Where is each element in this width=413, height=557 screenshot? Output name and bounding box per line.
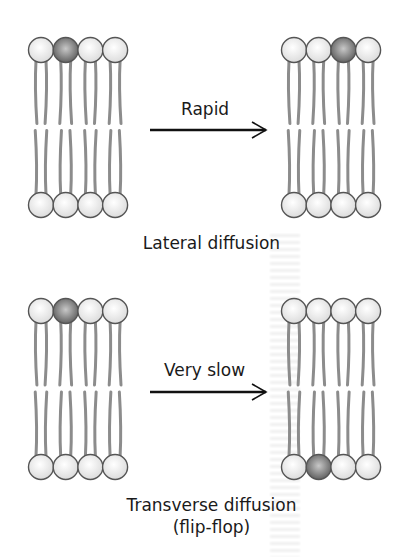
lipid-tail [323, 322, 324, 386]
lipid-tail [95, 392, 96, 457]
lipid-tail [70, 61, 71, 124]
lipid-tail [363, 131, 364, 195]
highlighted-lipid-head [331, 38, 356, 63]
lipid-head [29, 455, 54, 480]
lipid-tail [313, 131, 314, 195]
caption-transverse-diffusion: Transverse diffusion [0, 494, 413, 516]
lipid-tail [338, 392, 339, 457]
lipid-head [282, 455, 307, 480]
lipid-head [306, 299, 331, 324]
lipid-head [356, 299, 381, 324]
lipid-tail [288, 322, 289, 386]
lipid-tail [298, 131, 299, 195]
lipid-tail [373, 322, 374, 386]
lipid-tail [323, 392, 324, 457]
lipid-tail [372, 392, 373, 457]
caption-flip-flop: (flip-flop) [0, 516, 413, 538]
lipid-head [356, 193, 381, 218]
lipid-tail [362, 61, 363, 124]
lipid-head [53, 193, 78, 218]
lipid-head [282, 38, 307, 63]
lipid-tail [35, 392, 36, 457]
lipid-tail [288, 61, 289, 124]
lipid-head [29, 299, 54, 324]
lipid-tail [119, 392, 120, 457]
lipid-tail [298, 322, 299, 386]
arrow-label-very-slow: Very slow [164, 360, 245, 380]
lipid-head [331, 455, 356, 480]
lipid-tail [85, 61, 86, 124]
lipid-head [331, 193, 356, 218]
lipid-head [103, 299, 128, 324]
lipid-tail [60, 392, 61, 457]
lipid-tail [110, 131, 111, 195]
lipid-tail [348, 61, 349, 124]
lipid-head [356, 455, 381, 480]
diagram-graphics [0, 0, 413, 557]
lipid-tail [70, 392, 71, 457]
lipid-tail [109, 61, 110, 124]
lipid-tail [120, 61, 121, 124]
lipid-tail [288, 392, 289, 457]
caption-lateral-diffusion: Lateral diffusion [0, 232, 413, 254]
lipid-head [306, 38, 331, 63]
lipid-tail [35, 131, 36, 195]
lipid-tail [298, 61, 299, 124]
bilayer-lateral-before [29, 38, 128, 218]
lipid-head [78, 38, 103, 63]
lipid-tail [60, 322, 61, 386]
lipid-head [331, 299, 356, 324]
lipid-tail [85, 131, 86, 195]
lipid-tail [288, 131, 289, 195]
lipid-tail [372, 131, 373, 195]
highlighted-lipid-head [53, 38, 78, 63]
arrow-very-slow-icon [150, 384, 266, 400]
lipid-tail [338, 131, 339, 195]
lipid-tail [120, 322, 121, 386]
lipid-tail [109, 322, 110, 386]
lipid-head [78, 299, 103, 324]
lipid-tail [95, 131, 96, 195]
lipid-tail [363, 392, 364, 457]
lipid-tail [313, 322, 314, 386]
lipid-tail [313, 392, 314, 457]
arrow-label-rapid: Rapid [181, 99, 229, 119]
lipid-tail [85, 322, 86, 386]
lipid-tail [85, 392, 86, 457]
lipid-tail [35, 61, 36, 124]
lipid-tail [110, 392, 111, 457]
bilayer-lateral-after [282, 38, 381, 218]
lipid-tail [323, 61, 324, 124]
bilayer-transverse-before [29, 299, 128, 480]
lipid-tail [45, 392, 46, 457]
lipid-tail [45, 131, 46, 195]
lipid-head [282, 299, 307, 324]
membrane-diffusion-diagram: Rapid Lateral diffusion Very slow Transv… [0, 0, 413, 557]
highlighted-lipid-head [53, 299, 78, 324]
lipid-head [29, 193, 54, 218]
lipid-tail [298, 392, 299, 457]
lipid-tail [35, 322, 36, 386]
arrow-rapid-icon [150, 122, 266, 138]
lipid-tail [348, 322, 349, 386]
lipid-tail [45, 61, 46, 124]
lipid-head [78, 193, 103, 218]
lipid-tail [60, 61, 61, 124]
lipid-tail [338, 322, 339, 386]
lipid-tail [45, 322, 46, 386]
lipid-tail [362, 322, 363, 386]
lipid-tail [60, 131, 61, 195]
lipid-tail [95, 61, 96, 124]
lipid-head [356, 38, 381, 63]
lipid-tail [70, 131, 71, 195]
lipid-tail [313, 61, 314, 124]
lipid-head [78, 455, 103, 480]
lipid-tail [323, 131, 324, 195]
lipid-tail [348, 131, 349, 195]
lipid-tail [95, 322, 96, 386]
highlighted-lipid-head [306, 455, 331, 480]
lipid-tail [70, 322, 71, 386]
lipid-head [29, 38, 54, 63]
lipid-head [282, 193, 307, 218]
lipid-tail [348, 392, 349, 457]
